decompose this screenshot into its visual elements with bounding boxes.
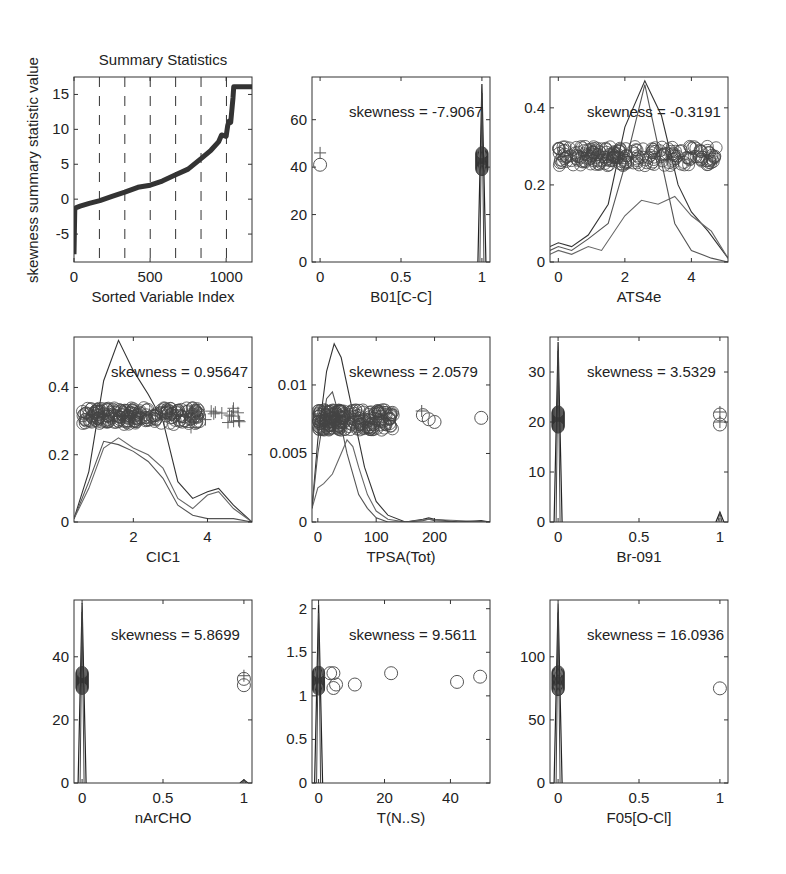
x-tick-label: 40	[442, 789, 459, 806]
x-tick-label: 1000	[209, 268, 242, 285]
x-axis-label: B01[C-C]	[370, 288, 432, 305]
density-curve	[550, 196, 728, 258]
y-tick-label: 0	[299, 253, 307, 270]
x-tick-label: 0	[554, 789, 562, 806]
y-tick-label: 0	[61, 190, 69, 207]
x-axis-label: Br-091	[616, 548, 661, 565]
skewness-annotation: skewness = 5.8699	[111, 626, 240, 643]
density-spike	[317, 613, 321, 783]
scatter-circle	[314, 158, 327, 171]
x-axis-label: CIC1	[146, 548, 180, 565]
x-tick-label: 0.5	[629, 528, 650, 545]
skewness-annotation: skewness = -0.3191	[587, 103, 721, 120]
x-tick-label: 0	[316, 268, 324, 285]
x-tick-label: 500	[138, 268, 163, 285]
y-tick-label: 20	[52, 711, 69, 728]
chart-panel-CIC1: 2400.20.4CIC1skewness = 0.95647	[48, 337, 252, 565]
y-tick-label: 0	[537, 774, 545, 791]
scatter-circle	[475, 411, 488, 424]
x-tick-label: 2	[621, 268, 629, 285]
figure-canvas: skewness summary statistic value 0500100…	[0, 0, 786, 874]
x-tick-label: 0	[70, 268, 78, 285]
x-tick-label: 4	[203, 528, 211, 545]
x-tick-label: 0	[314, 528, 322, 545]
skewness-annotation: skewness = 2.0579	[349, 363, 478, 380]
density-spike	[556, 613, 560, 783]
x-tick-label: 4	[687, 268, 695, 285]
x-tick-label: 20	[376, 789, 393, 806]
skewness-annotation: skewness = -7.9067	[349, 103, 483, 120]
y-tick-label: 20	[290, 206, 307, 223]
chart-panel-nArCHO: 00.5102040nArCHOskewness = 5.8699	[52, 600, 252, 826]
y-tick-label: 1.5	[286, 643, 307, 660]
x-tick-label: 0.5	[391, 268, 412, 285]
density-spike	[556, 351, 560, 522]
y-tick-label: 0	[299, 513, 307, 530]
scatter-plus	[216, 407, 228, 419]
axes-box	[74, 77, 252, 262]
chart-panel-ATS4e: 02400.20.4ATS4eskewness = -0.3191	[524, 77, 728, 305]
x-tick-label: 0	[78, 789, 86, 806]
y-tick-label: 10	[528, 463, 545, 480]
skewness-curve	[74, 87, 252, 255]
x-tick-label: 2	[129, 528, 137, 545]
x-axis-label: nArCHO	[135, 809, 192, 826]
density-curve	[312, 440, 490, 522]
y-tick-label: 60	[290, 111, 307, 128]
scatter-circle	[474, 670, 487, 683]
scatter-circle	[451, 675, 464, 688]
y-tick-label: 30	[528, 363, 545, 380]
skewness-annotation: skewness = 0.95647	[111, 363, 248, 380]
scatter-circle	[330, 678, 343, 691]
density-curve	[74, 441, 252, 522]
x-axis-label: F05[O-Cl]	[606, 809, 671, 826]
skewness-annotation: skewness = 16.0936	[587, 626, 724, 643]
x-tick-label: 0	[554, 268, 562, 285]
y-tick-label: 0.2	[48, 446, 69, 463]
x-tick-label: 100	[364, 528, 389, 545]
scatter-circle	[385, 667, 398, 680]
x-tick-label: 0.5	[153, 789, 174, 806]
y-tick-label: 40	[290, 158, 307, 175]
y-tick-label: 0.01	[278, 376, 307, 393]
y-tick-label: 50	[528, 711, 545, 728]
y-tick-label: 0	[299, 774, 307, 791]
y-tick-label: 15	[52, 85, 69, 102]
density-spike	[80, 612, 84, 783]
scatter-circle	[713, 682, 726, 695]
x-axis-label: Sorted Variable Index	[91, 288, 235, 305]
y-tick-label: 0	[537, 253, 545, 270]
global-y-axis-label: skewness summary statistic value	[24, 57, 41, 283]
y-tick-label: 1	[299, 687, 307, 704]
chart-panel-F05OCl: 00.51050100F05[O-Cl]skewness = 16.0936	[520, 600, 728, 826]
x-tick-label: 1	[478, 268, 486, 285]
chart-panel-summary: 05001000-5051015Sorted Variable IndexSum…	[52, 51, 252, 305]
x-axis-label: TPSA(Tot)	[366, 548, 435, 565]
scatter-circle	[327, 682, 340, 695]
y-tick-label: 5	[61, 155, 69, 172]
y-tick-label: 0.4	[48, 378, 69, 395]
y-tick-label: 10	[52, 120, 69, 137]
scatter-circle	[327, 667, 340, 680]
scatter-plus	[416, 405, 428, 417]
y-tick-label: 0	[61, 774, 69, 791]
scatter-plus	[314, 147, 326, 159]
y-tick-label: 0.005	[269, 444, 307, 461]
x-axis-label: T(N..S)	[377, 809, 425, 826]
chart-panel-TNS: 0204000.511.52T(N..S)skewness = 9.5611	[286, 600, 490, 826]
x-tick-label: 1	[716, 528, 724, 545]
skewness-annotation: skewness = 3.5329	[587, 363, 716, 380]
chart-title: Summary Statistics	[99, 51, 227, 68]
plot-area	[74, 77, 252, 262]
y-tick-label: -5	[56, 225, 69, 242]
scatter-plus	[208, 408, 220, 420]
y-tick-label: 0.4	[524, 99, 545, 116]
x-tick-label: 1	[240, 789, 248, 806]
y-tick-label: 0.2	[524, 176, 545, 193]
y-tick-label: 100	[520, 648, 545, 665]
y-tick-label: 20	[528, 413, 545, 430]
scatter-circle	[348, 678, 361, 691]
y-tick-label: 0	[61, 513, 69, 530]
y-tick-label: 40	[52, 648, 69, 665]
scatter-plus	[222, 417, 234, 429]
